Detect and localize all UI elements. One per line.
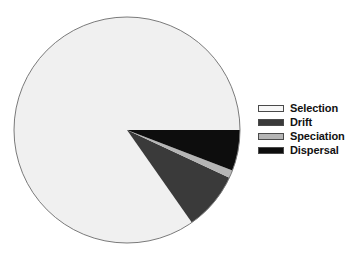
legend-item-speciation[interactable]: Speciation xyxy=(258,129,353,143)
legend-swatch-drift-icon xyxy=(258,119,284,126)
legend-swatch-speciation-icon xyxy=(258,133,284,140)
legend-label-selection: Selection xyxy=(290,102,338,114)
legend-item-dispersal[interactable]: Dispersal xyxy=(258,143,353,157)
legend-label-speciation: Speciation xyxy=(290,130,345,142)
legend-item-selection[interactable]: Selection xyxy=(258,101,353,115)
legend-label-drift: Drift xyxy=(290,116,312,128)
chart-legend: Selection Drift Speciation Dispersal xyxy=(258,101,353,157)
pie-chart-figure: Selection Drift Speciation Dispersal xyxy=(0,0,355,260)
legend-item-drift[interactable]: Drift xyxy=(258,115,353,129)
pie-slice-group xyxy=(14,17,240,243)
legend-swatch-dispersal-icon xyxy=(258,147,284,154)
legend-label-dispersal: Dispersal xyxy=(290,144,339,156)
legend-swatch-selection-icon xyxy=(258,105,284,112)
